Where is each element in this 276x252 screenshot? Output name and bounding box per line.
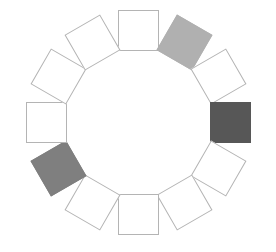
ring-square [118,10,159,51]
ring-square [26,102,67,143]
square-ring [0,0,276,252]
ring-square [210,102,251,143]
ring-square [118,194,159,235]
figure-canvas [0,0,276,252]
